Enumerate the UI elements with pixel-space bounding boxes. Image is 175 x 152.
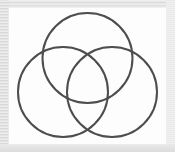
frame-left-edge <box>0 0 9 152</box>
frame-bottom-edge <box>0 144 175 152</box>
diagram-canvas: Three-circle Venn diagram <box>9 8 166 144</box>
venn-diagram-svg: Three-circle Venn diagram <box>9 8 166 144</box>
venn-circle-right <box>67 47 157 137</box>
venn-circle-top <box>43 13 133 103</box>
frame-right-edge <box>166 0 175 152</box>
venn-circle-left <box>18 47 108 137</box>
screenshot-root: Three-circle Venn diagram <box>0 0 175 152</box>
